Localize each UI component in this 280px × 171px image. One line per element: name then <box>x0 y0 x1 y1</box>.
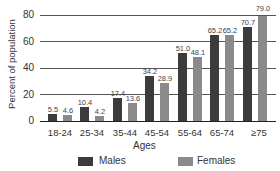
legend-swatch-males <box>78 157 93 166</box>
value-label: 48.1 <box>186 48 210 57</box>
bar-males-18-24 <box>48 114 57 121</box>
legend-swatch-females <box>178 157 193 166</box>
value-label: 70.7 <box>236 18 260 27</box>
gridline-60 <box>40 41 276 42</box>
value-label: 4.2 <box>88 107 112 116</box>
bar-females-55-64 <box>193 57 202 121</box>
x-axis-label: Ages <box>133 140 156 151</box>
x-tick-label: 55-64 <box>174 127 206 138</box>
bar-females-45-54 <box>160 83 169 121</box>
bar-females-35-44 <box>128 103 137 121</box>
bar-males-65-74 <box>210 35 219 121</box>
gridline-80 <box>40 15 276 16</box>
value-label: 10.4 <box>73 98 97 107</box>
x-tick-label: 25-34 <box>76 127 108 138</box>
value-label: 65.2 <box>218 26 242 35</box>
legend-label-females: Females <box>197 155 235 166</box>
y-tick-60: 60 <box>14 36 34 47</box>
x-axis-line <box>40 121 276 122</box>
x-tick-label: ≥75 <box>243 127 275 138</box>
bar-females-75plus <box>258 16 267 121</box>
y-tick-40: 40 <box>14 62 34 73</box>
value-label: 4.6 <box>56 106 80 115</box>
bar-males-75plus <box>243 27 252 121</box>
gridline-20 <box>40 94 276 95</box>
x-tick-label: 18-24 <box>44 127 76 138</box>
bar-males-55-64 <box>178 53 187 121</box>
y-tick-80: 80 <box>14 9 34 20</box>
value-label: 79.0 <box>251 4 275 13</box>
bar-females-65-74 <box>225 35 234 121</box>
y-tick-20: 20 <box>14 89 34 100</box>
x-tick-label: 35-44 <box>109 127 141 138</box>
value-label: 28.9 <box>153 74 177 83</box>
x-tick-label: 65-74 <box>206 127 238 138</box>
x-tick-label: 45-54 <box>141 127 173 138</box>
value-label: 13.6 <box>121 94 145 103</box>
y-tick-0: 0 <box>14 115 34 126</box>
legend-label-males: Males <box>99 155 126 166</box>
